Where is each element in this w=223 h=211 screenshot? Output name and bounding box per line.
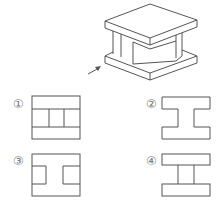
drawing-canvas <box>0 0 223 211</box>
option-4-label[interactable]: ④ <box>146 155 157 167</box>
view-direction-arrow <box>88 66 101 74</box>
option-1-drawing <box>32 96 80 139</box>
option-4-drawing <box>162 154 210 196</box>
option-2-label[interactable]: ② <box>146 98 157 110</box>
option-2-drawing <box>162 97 210 139</box>
option-3-label[interactable]: ③ <box>13 155 24 167</box>
isometric-object <box>105 4 197 80</box>
option-3-drawing <box>32 154 80 196</box>
option-1-label[interactable]: ① <box>13 98 24 110</box>
